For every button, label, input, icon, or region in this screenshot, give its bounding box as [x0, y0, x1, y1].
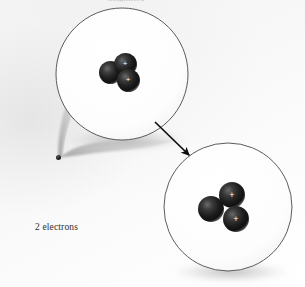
atom-nucleus-figure: magnified	[0, 0, 305, 287]
electrons-caption: 2 electrons	[35, 222, 78, 232]
lower-nucleon-proton-1: +	[219, 182, 245, 208]
atom-dot	[56, 155, 62, 161]
upper-nucleon-proton-2: +	[117, 69, 140, 92]
plus-symbol: +	[123, 60, 128, 68]
plus-symbol: +	[233, 215, 238, 224]
plus-symbol: +	[229, 191, 234, 200]
lower-nucleon-proton-2: +	[223, 206, 249, 232]
figure-vector-layer	[0, 0, 305, 287]
plus-symbol: +	[126, 76, 131, 84]
